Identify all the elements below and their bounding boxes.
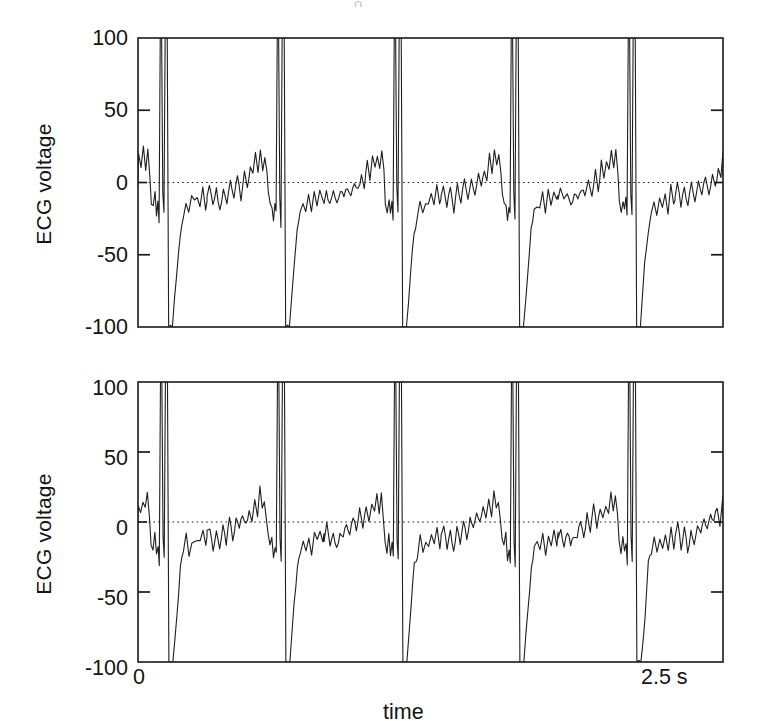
panel-top: ECG voltage 100 50 0 -50 -100 <box>0 0 781 360</box>
ecg-figure: o ECG voltage 100 50 0 -50 -100 ECG volt… <box>0 0 781 721</box>
x-tick-label-end: 2.5 s <box>641 665 688 690</box>
x-tick-label-start: 0 <box>133 665 145 690</box>
x-axis-label: time <box>383 700 424 721</box>
panel-bottom: ECG voltage 100 50 0 -50 -100 0 2.5 s ti… <box>0 360 781 721</box>
plot-area-top <box>0 0 781 360</box>
